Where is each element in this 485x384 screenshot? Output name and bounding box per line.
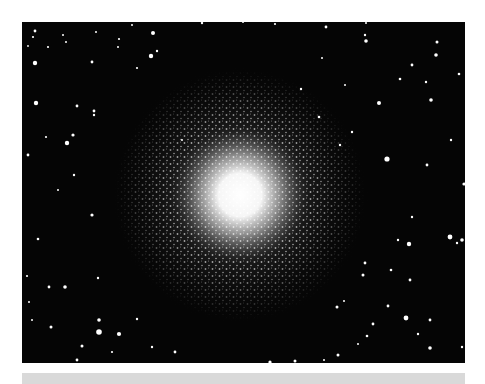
star-cluster-photo <box>22 22 465 363</box>
bottom-bar <box>22 373 465 384</box>
star-field <box>22 22 465 363</box>
page <box>0 0 485 384</box>
cluster-core <box>168 123 312 267</box>
